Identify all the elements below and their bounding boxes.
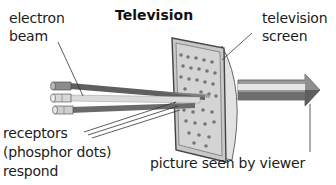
electron-guns-icon <box>51 82 74 114</box>
label-electron-beam-line2: beam <box>9 28 48 45</box>
label-tv-screen-line1: television <box>262 10 327 27</box>
label-picture-seen-by-viewer: picture seen by viewer <box>150 155 305 172</box>
label-receptors-line1: receptors <box>3 125 68 142</box>
label-tv-screen-line2: screen <box>262 28 307 45</box>
label-receptors-line2: (phosphor dots) <box>3 144 111 161</box>
picture-arrow-icon <box>238 74 320 106</box>
diagram-title: Television <box>115 7 193 24</box>
label-electron-beam-line1: electron <box>9 10 65 27</box>
television-diagram: Television electron beam television scre… <box>0 0 336 185</box>
label-receptors-line3: respond <box>3 163 58 180</box>
